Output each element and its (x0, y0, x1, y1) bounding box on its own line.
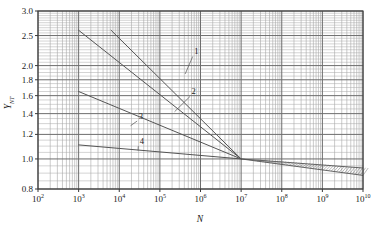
y-tick-label: 3.0 (22, 6, 34, 16)
y-tick-label: 1.8 (22, 75, 34, 85)
y-axis-title: YNT (3, 96, 15, 109)
x-tick-label: 103 (73, 193, 85, 204)
x-axis-title: N (196, 214, 204, 224)
y-axis-label: YNT (3, 96, 15, 109)
curve-label-3: 3 (139, 111, 143, 121)
x-axis-tick-labels: 1021031041051061071081091010 (32, 189, 371, 204)
x-tick-label: 107 (235, 193, 247, 204)
curve-label-4: 4 (140, 136, 145, 146)
x-tick-label: 109 (316, 193, 328, 204)
y-axis-tick-labels: 0.81.01.21.41.61.82.02.53.0 (22, 6, 38, 194)
y-tick-label: 1.6 (22, 91, 34, 101)
y-tick-label: 1.2 (22, 129, 33, 139)
curve-label-2: 2 (191, 86, 195, 96)
x-tick-label: 105 (154, 193, 166, 204)
chart-canvas: 1234 1021031041051061071081091010 0.81.0… (0, 0, 377, 227)
x-tick-label: 1010 (356, 193, 371, 204)
y-tick-label: 2.0 (22, 61, 34, 71)
curve-label-1: 1 (194, 46, 198, 56)
x-tick-label: 108 (276, 193, 288, 204)
y-tick-label: 2.5 (22, 31, 34, 41)
stress-cycle-factor-chart: 1234 1021031041051061071081091010 0.81.0… (0, 0, 377, 227)
y-tick-label: 0.8 (22, 184, 34, 194)
x-tick-label: 104 (113, 193, 125, 204)
y-tick-label: 1.4 (22, 109, 34, 119)
y-tick-label: 1.0 (22, 154, 34, 164)
x-axis-label: N (196, 214, 204, 224)
x-tick-label: 106 (195, 193, 207, 204)
x-tick-label: 102 (32, 193, 44, 204)
